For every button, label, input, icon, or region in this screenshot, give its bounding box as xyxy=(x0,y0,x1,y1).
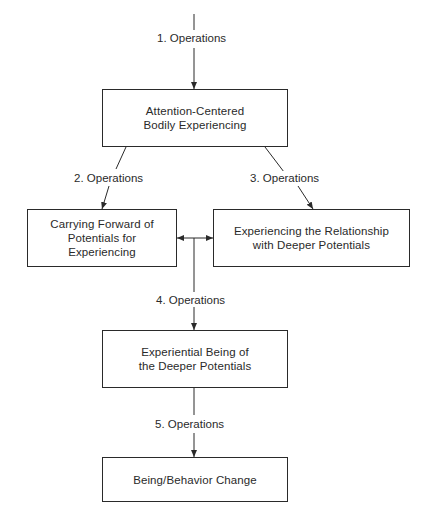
flowchart-diagram: 1. Operations 2. Operations 3. Operation… xyxy=(0,0,427,532)
node-label-line: Carrying Forward of xyxy=(50,217,154,231)
node-label-line: Bodily Experiencing xyxy=(144,118,247,132)
node-experiencing-the-relationship: Experiencing the Relationship with Deepe… xyxy=(213,209,410,267)
node-attention-centered-bodily-experiencing: Attention-Centered Bodily Experiencing xyxy=(102,89,288,147)
node-being-behavior-change: Being/Behavior Change xyxy=(102,457,288,502)
edge-n1-to-n2-lower xyxy=(102,186,109,209)
edge-n1-to-n3-lower xyxy=(298,186,313,209)
edge-label-op4: 4. Operations xyxy=(154,293,227,307)
edge-label-op2: 2. Operations xyxy=(72,171,145,185)
edge-label-op1: 1. Operations xyxy=(155,31,228,45)
edge-label-op3: 3. Operations xyxy=(248,171,321,185)
edge-label-op5: 5. Operations xyxy=(153,417,226,431)
node-label-line: Attention-Centered xyxy=(146,104,244,118)
node-label-line: Experiential Being of xyxy=(141,345,249,359)
node-label-line: Potentials for xyxy=(68,231,137,245)
edge-n1-to-n3-upper xyxy=(265,147,284,172)
node-experiential-being-of-deeper-potentials: Experiential Being of the Deeper Potenti… xyxy=(102,330,288,388)
node-label-line: Experiencing the Relationship xyxy=(234,224,389,238)
node-label-line: Being/Behavior Change xyxy=(133,473,257,487)
node-label-line: with Deeper Potentials xyxy=(253,238,370,252)
node-carrying-forward-of-potentials: Carrying Forward of Potentials for Exper… xyxy=(27,209,177,267)
node-label-line: the Deeper Potentials xyxy=(139,359,252,373)
node-label-line: Experiencing xyxy=(68,245,136,259)
edge-n1-to-n2-upper xyxy=(116,147,126,169)
